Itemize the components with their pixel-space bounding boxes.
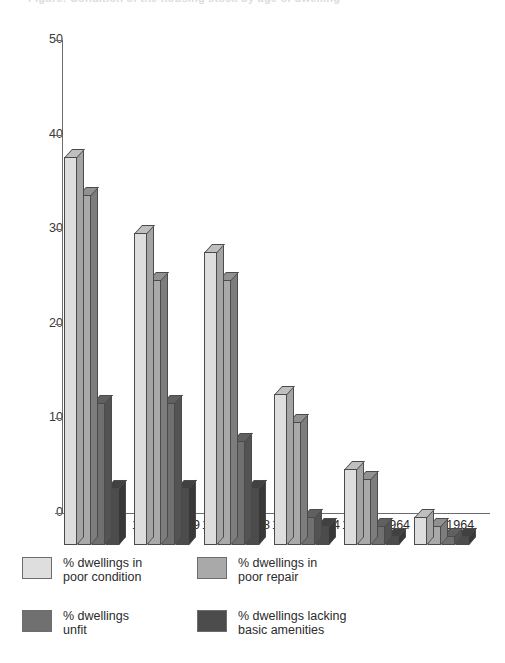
legend-label: % dwellings in poor condition — [63, 556, 142, 584]
legend-swatch — [22, 610, 52, 632]
y-axis-tick: 10 — [0, 418, 63, 419]
bar-group — [64, 32, 128, 545]
y-axis-tick-mark — [55, 229, 63, 230]
y-axis-tick-label: 0 — [17, 505, 63, 519]
bar-side-face — [287, 385, 294, 545]
bar-side-face — [259, 480, 266, 545]
legend-label: % dwellings unfit — [63, 609, 129, 637]
bar[interactable] — [134, 233, 147, 545]
bar-side-face — [301, 414, 308, 545]
y-axis-tick-label: 40 — [17, 127, 63, 141]
legend-swatch — [22, 557, 52, 579]
bar-front-face — [64, 157, 77, 545]
bar-side-face — [231, 272, 238, 545]
bar-group — [134, 32, 198, 545]
y-axis-tick-mark — [55, 513, 63, 514]
y-axis-tick: 20 — [0, 324, 63, 325]
y-axis-tick-mark — [55, 40, 63, 41]
legend-swatch — [197, 610, 227, 632]
y-axis-tick: 0 — [0, 513, 63, 514]
bar-side-face — [371, 470, 378, 545]
y-axis-tick: 30 — [0, 229, 63, 230]
bar-front-face — [204, 252, 217, 545]
y-axis-tick-mark — [55, 135, 63, 136]
bar[interactable] — [204, 252, 217, 545]
legend-row: % dwellings in poor condition% dwellings… — [22, 556, 482, 584]
y-axis-tick-mark — [55, 418, 63, 419]
bar-group — [344, 32, 408, 545]
legend-item[interactable]: % dwellings in poor repair — [197, 556, 317, 584]
y-axis-line — [62, 40, 63, 514]
bar-front-face — [414, 517, 427, 545]
bar[interactable] — [274, 394, 287, 545]
bar-side-face — [175, 395, 182, 545]
legend-swatch — [197, 557, 227, 579]
bar-side-face — [357, 461, 364, 545]
legend-item[interactable]: % dwellings in poor condition — [22, 556, 197, 584]
bar-group — [414, 32, 478, 545]
bar-side-face — [91, 187, 98, 545]
bar[interactable] — [64, 157, 77, 545]
y-axis-tick-label: 10 — [17, 410, 63, 424]
legend-label: % dwellings in poor repair — [238, 556, 317, 584]
legend-label: % dwellings lacking basic amenities — [238, 609, 346, 637]
bar-side-face — [217, 243, 224, 545]
plot-area: 50403020100 Pre 18701870—18991900—191819… — [0, 0, 505, 545]
bar-side-face — [147, 224, 154, 545]
y-axis-tick-label: 50 — [17, 32, 63, 46]
bar[interactable] — [414, 517, 427, 545]
y-axis-tick-mark — [55, 324, 63, 325]
bar-side-face — [189, 480, 196, 545]
chart-legend: % dwellings in poor condition% dwellings… — [22, 556, 482, 662]
y-axis-tick-label: 30 — [17, 221, 63, 235]
bar-side-face — [119, 480, 126, 545]
bar-group — [274, 32, 338, 545]
legend-row: % dwellings unfit% dwellings lacking bas… — [22, 609, 482, 637]
bar[interactable] — [344, 469, 357, 545]
bar-front-face — [134, 233, 147, 545]
y-axis-tick-label: 20 — [17, 316, 63, 330]
bar-group — [204, 32, 268, 545]
y-axis-tick: 50 — [0, 40, 63, 41]
legend-item[interactable]: % dwellings lacking basic amenities — [197, 609, 346, 637]
bar-side-face — [105, 395, 112, 545]
bar-side-face — [161, 272, 168, 545]
legend-item[interactable]: % dwellings unfit — [22, 609, 197, 637]
bar-front-face — [274, 394, 287, 545]
bar-side-face — [245, 433, 252, 545]
y-axis-tick: 40 — [0, 135, 63, 136]
bar-front-face — [344, 469, 357, 545]
bar-side-face — [77, 149, 84, 545]
bar-chart-figure: Figure: Condition of the housing stock b… — [0, 0, 505, 663]
